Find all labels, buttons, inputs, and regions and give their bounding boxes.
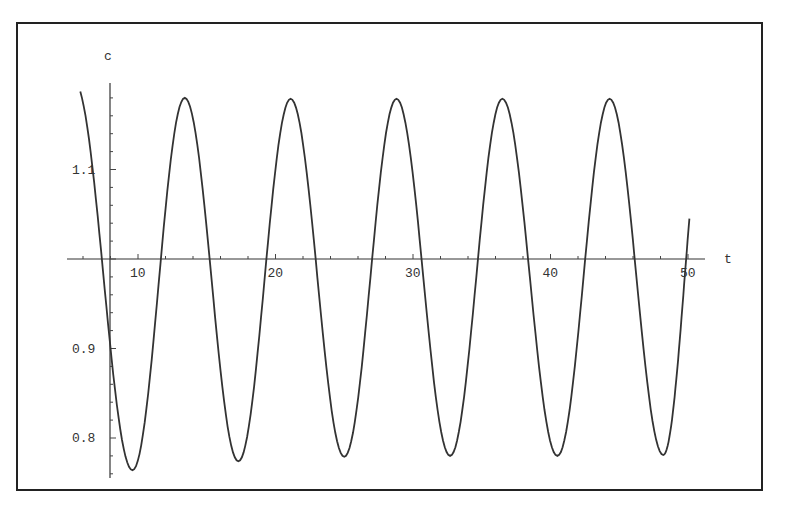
- series-line: [80, 92, 689, 471]
- plot-frame: [17, 23, 762, 490]
- y-tick-label: 0.8: [72, 431, 95, 446]
- x-axis-label: t: [724, 252, 732, 267]
- x-tick-label: 20: [268, 266, 284, 281]
- line-chart: 10203040500.80.91.1 t c: [0, 0, 796, 510]
- x-tick-label: 30: [405, 266, 421, 281]
- y-tick-label: 0.9: [72, 342, 95, 357]
- x-tick-label: 50: [680, 266, 696, 281]
- x-tick-label: 40: [543, 266, 559, 281]
- axes: 10203040500.80.91.1: [67, 83, 705, 478]
- x-tick-label: 10: [130, 266, 146, 281]
- y-axis-label: c: [104, 49, 112, 64]
